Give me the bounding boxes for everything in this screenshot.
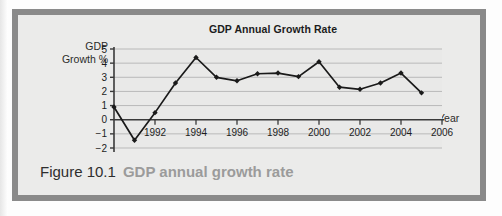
figure-frame: GDP Annual Growth Rate GDP Growth % Year… [12, 9, 486, 201]
y-axis-tick-label-5: 5 [101, 44, 107, 55]
y-axis-tick-label--2: −2 [96, 143, 108, 154]
scan-page-edge [0, 0, 8, 216]
figure-root: GDP Annual Growth Rate GDP Growth % Year… [0, 0, 502, 216]
x-axis-tick-label-1994: 1994 [185, 127, 208, 138]
x-axis-tick-label-2002: 2002 [349, 127, 372, 138]
y-axis-tick-label-1: 1 [101, 100, 107, 111]
chart-plot-svg: 543210−1−2199219941996199820002002200420… [18, 15, 480, 157]
caption-title: GDP annual growth rate [123, 163, 294, 180]
x-axis-tick-label-2006: 2006 [431, 127, 454, 138]
x-axis-tick-label-1996: 1996 [226, 127, 249, 138]
y-axis-tick-label-0: 0 [101, 114, 107, 125]
y-axis-tick-label-3: 3 [101, 72, 107, 83]
figure-caption: Figure 10.1GDP annual growth rate [40, 163, 293, 180]
y-axis-tick-label-4: 4 [101, 58, 107, 69]
caption-figure-number: Figure 10.1 [40, 163, 116, 180]
x-axis-tick-label-2004: 2004 [390, 127, 413, 138]
figure-inner-panel: GDP Annual Growth Rate GDP Growth % Year… [18, 15, 480, 195]
y-axis-tick-label--1: −1 [96, 128, 108, 139]
x-axis-tick-label-2000: 2000 [308, 127, 331, 138]
x-axis-tick-label-1992: 1992 [144, 127, 167, 138]
y-axis-tick-label-2: 2 [101, 86, 107, 97]
chart-container: GDP Annual Growth Rate GDP Growth % Year… [18, 15, 480, 157]
x-axis-tick-label-1998: 1998 [267, 127, 290, 138]
